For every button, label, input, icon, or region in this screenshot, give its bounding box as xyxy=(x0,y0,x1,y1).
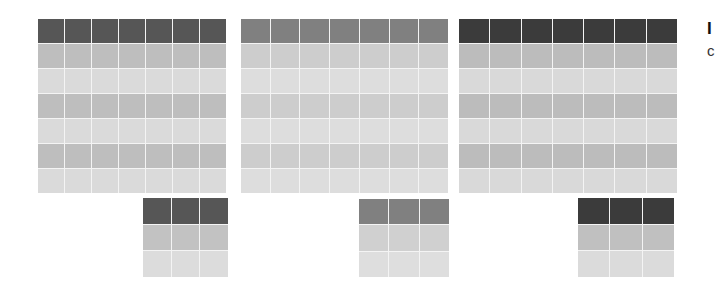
header-cell xyxy=(143,198,171,224)
mini-table-grid-2 xyxy=(359,199,449,277)
body-cell xyxy=(38,144,64,168)
body-cell xyxy=(271,69,300,93)
body-cell xyxy=(146,144,172,168)
body-cell xyxy=(146,119,172,143)
header-cell xyxy=(615,19,645,43)
header-cell xyxy=(459,19,489,43)
body-cell xyxy=(271,119,300,143)
header-cell xyxy=(584,19,614,43)
body-cell xyxy=(553,144,583,168)
body-cell xyxy=(92,44,118,68)
header-cell xyxy=(610,198,641,224)
body-cell xyxy=(119,119,145,143)
body-cell xyxy=(359,252,388,277)
body-cell xyxy=(38,119,64,143)
body-cell xyxy=(459,169,489,193)
header-cell xyxy=(390,19,419,43)
body-cell xyxy=(490,119,520,143)
body-cell xyxy=(610,251,641,277)
body-cell xyxy=(522,94,552,118)
body-cell xyxy=(119,44,145,68)
header-cell xyxy=(490,19,520,43)
header-cell xyxy=(146,19,172,43)
body-cell xyxy=(390,94,419,118)
body-cell xyxy=(419,169,448,193)
body-cell xyxy=(647,44,677,68)
body-cell xyxy=(459,119,489,143)
body-cell xyxy=(173,44,199,68)
body-cell xyxy=(119,69,145,93)
body-cell xyxy=(522,169,552,193)
body-cell xyxy=(241,69,270,93)
header-cell xyxy=(200,198,228,224)
body-cell xyxy=(92,119,118,143)
body-cell xyxy=(65,119,91,143)
body-cell xyxy=(200,69,226,93)
body-cell xyxy=(459,144,489,168)
header-cell xyxy=(420,199,449,224)
body-cell xyxy=(172,225,200,251)
body-cell xyxy=(300,94,329,118)
cropped-heading: I xyxy=(707,19,712,39)
body-cell xyxy=(330,44,359,68)
body-cell xyxy=(490,144,520,168)
body-cell xyxy=(173,94,199,118)
mini-table-grid-1 xyxy=(143,198,228,277)
body-cell xyxy=(65,69,91,93)
body-cell xyxy=(584,144,614,168)
body-cell xyxy=(271,144,300,168)
body-cell xyxy=(146,44,172,68)
body-cell xyxy=(390,69,419,93)
body-cell xyxy=(330,169,359,193)
body-cell xyxy=(459,94,489,118)
body-cell xyxy=(490,69,520,93)
table-grid-2 xyxy=(241,19,448,193)
body-cell xyxy=(38,169,64,193)
body-cell xyxy=(615,144,645,168)
header-cell xyxy=(359,199,388,224)
body-cell xyxy=(200,144,226,168)
header-cell xyxy=(92,19,118,43)
body-cell xyxy=(119,144,145,168)
body-cell xyxy=(143,225,171,251)
body-cell xyxy=(522,144,552,168)
body-cell xyxy=(647,144,677,168)
body-cell xyxy=(584,119,614,143)
body-cell xyxy=(271,169,300,193)
body-cell xyxy=(390,44,419,68)
body-cell xyxy=(173,144,199,168)
body-cell xyxy=(522,69,552,93)
body-cell xyxy=(241,44,270,68)
body-cell xyxy=(360,169,389,193)
body-cell xyxy=(330,144,359,168)
body-cell xyxy=(360,44,389,68)
header-cell xyxy=(553,19,583,43)
header-cell xyxy=(172,198,200,224)
body-cell xyxy=(173,119,199,143)
body-cell xyxy=(38,44,64,68)
body-cell xyxy=(92,169,118,193)
body-cell xyxy=(271,44,300,68)
body-cell xyxy=(647,94,677,118)
body-cell xyxy=(615,69,645,93)
body-cell xyxy=(200,119,226,143)
body-cell xyxy=(459,69,489,93)
header-cell xyxy=(173,19,199,43)
mini-table-grid-3 xyxy=(578,198,674,277)
body-cell xyxy=(271,94,300,118)
body-cell xyxy=(173,69,199,93)
header-cell xyxy=(200,19,226,43)
body-cell xyxy=(643,225,674,251)
body-cell xyxy=(92,69,118,93)
body-cell xyxy=(490,169,520,193)
header-cell xyxy=(647,19,677,43)
body-cell xyxy=(300,144,329,168)
body-cell xyxy=(490,94,520,118)
body-cell xyxy=(419,69,448,93)
body-cell xyxy=(200,44,226,68)
body-cell xyxy=(38,94,64,118)
body-cell xyxy=(578,225,609,251)
body-cell xyxy=(330,119,359,143)
body-cell xyxy=(173,169,199,193)
body-cell xyxy=(200,94,226,118)
